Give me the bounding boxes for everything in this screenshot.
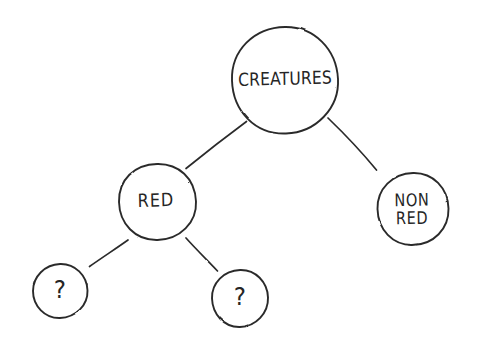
edge-layer: [90, 118, 377, 271]
node-circle-creatures[interactable]: [232, 27, 338, 134]
sketch-layer: [0, 0, 481, 345]
node-circle-unknown-left[interactable]: [33, 264, 88, 318]
diagram-canvas: CREATURES RED NON RED ? ?: [0, 0, 481, 345]
node-circle-unknown-right[interactable]: [212, 270, 268, 327]
edge-creatures-red: [186, 122, 247, 169]
edge-red-unknown-right: [186, 238, 218, 271]
node-circle-non-red[interactable]: [377, 173, 448, 245]
node-outline-layer: [33, 27, 449, 327]
edge-red-unknown-left: [90, 240, 129, 267]
edge-creatures-non-red: [328, 118, 377, 170]
node-circle-red[interactable]: [119, 164, 196, 240]
